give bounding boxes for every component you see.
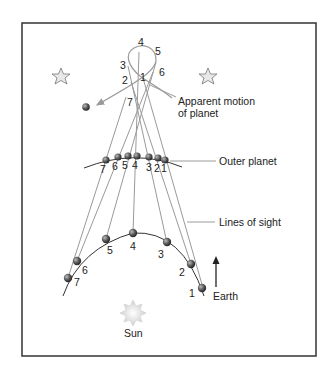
svg-text:3: 3 <box>158 248 164 260</box>
svg-text:1: 1 <box>140 71 146 83</box>
svg-text:2: 2 <box>122 74 128 86</box>
svg-text:6: 6 <box>159 66 165 78</box>
svg-text:1: 1 <box>161 162 167 174</box>
apparent-planet <box>82 103 90 111</box>
svg-text:2: 2 <box>179 266 185 278</box>
svg-text:4: 4 <box>130 240 136 252</box>
apparent-motion-label: Apparent motion <box>178 95 255 107</box>
star-icon <box>52 68 70 84</box>
svg-text:5: 5 <box>122 159 128 171</box>
svg-text:7: 7 <box>74 276 80 288</box>
svg-text:4: 4 <box>132 159 138 171</box>
apparent-motion-leader <box>150 85 176 97</box>
svg-text:5: 5 <box>155 45 161 57</box>
apparent-motion-label-2: of planet <box>178 107 218 119</box>
svg-text:5: 5 <box>107 244 113 256</box>
svg-text:2: 2 <box>154 162 160 174</box>
svg-text:6: 6 <box>82 264 88 276</box>
retrograde-motion-diagram: 4 5 3 6 2 1 7 Apparent motion of planet … <box>0 0 332 370</box>
sun-label: Sun <box>124 327 143 339</box>
svg-text:4: 4 <box>138 36 144 48</box>
sun-icon <box>120 300 146 326</box>
frame <box>22 23 316 356</box>
star-icon <box>199 68 217 84</box>
outer-planet-label: Outer planet <box>219 155 277 167</box>
svg-text:7: 7 <box>127 96 133 108</box>
svg-text:1: 1 <box>189 287 195 299</box>
lines-of-sight-label: Lines of sight <box>219 216 281 228</box>
svg-text:6: 6 <box>112 160 118 172</box>
svg-text:3: 3 <box>146 161 152 173</box>
arrow-up-icon <box>213 256 220 264</box>
svg-text:3: 3 <box>120 59 126 71</box>
earth-label: Earth <box>213 290 238 302</box>
outer-planet-labels: 7 6 5 4 3 2 1 <box>100 159 167 175</box>
svg-text:7: 7 <box>100 163 106 175</box>
